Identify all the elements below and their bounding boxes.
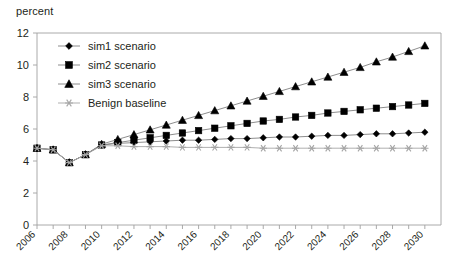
- x-tick-label: 2020: [240, 228, 264, 252]
- legend-item-label: Benign baseline: [88, 97, 166, 109]
- data-point-marker: [276, 134, 282, 140]
- data-point-marker: [147, 135, 153, 141]
- data-point-marker: [195, 127, 201, 133]
- data-point-marker: [357, 107, 363, 113]
- chart-container: percent 024681012 2006200820102012201420…: [0, 0, 454, 273]
- data-point-marker: [421, 42, 429, 49]
- data-point-marker: [324, 145, 331, 151]
- data-point-marker: [389, 103, 395, 109]
- data-point-marker: [244, 120, 250, 126]
- data-point-marker: [260, 135, 266, 141]
- x-tick-label: 2010: [79, 228, 103, 252]
- data-point-marker: [325, 110, 331, 116]
- data-point-marker: [212, 136, 218, 142]
- y-axis-ticks: 024681012: [17, 27, 37, 231]
- x-tick-label: 2024: [305, 228, 329, 252]
- legend-item-1[interactable]: sim1 scenario: [58, 40, 156, 52]
- y-tick-label: 6: [23, 123, 29, 135]
- data-point-marker: [276, 116, 282, 122]
- data-point-marker: [357, 145, 364, 151]
- data-point-marker: [389, 145, 396, 151]
- legend-item-label: sim1 scenario: [88, 40, 156, 52]
- data-point-marker: [405, 102, 411, 108]
- data-point-marker: [211, 144, 218, 150]
- data-point-marker: [179, 137, 185, 143]
- data-point-marker: [422, 100, 428, 106]
- data-point-marker: [228, 123, 234, 129]
- data-point-marker: [244, 135, 250, 141]
- y-tick-label: 8: [23, 91, 29, 103]
- legend-item-2[interactable]: sim2 scenario: [58, 59, 156, 71]
- data-point-marker: [179, 130, 185, 136]
- series-2: [34, 100, 428, 166]
- y-tick-label: 10: [17, 59, 29, 71]
- data-point-marker: [195, 137, 201, 143]
- data-point-marker: [341, 108, 347, 114]
- data-point-marker: [373, 105, 379, 111]
- data-point-marker: [227, 144, 234, 150]
- data-point-marker: [309, 133, 315, 139]
- x-tick-label: 2022: [272, 228, 296, 252]
- data-point-marker: [373, 145, 380, 151]
- data-point-marker: [292, 145, 299, 151]
- data-point-marker: [373, 131, 379, 137]
- legend-item-label: sim3 scenario: [88, 78, 156, 90]
- x-tick-label: 2026: [337, 228, 361, 252]
- data-point-marker: [389, 131, 395, 137]
- y-tick-label: 4: [23, 155, 29, 167]
- legend-item-3[interactable]: sim3 scenario: [58, 78, 156, 90]
- legend-item-label: sim2 scenario: [88, 59, 156, 71]
- data-point-marker: [66, 43, 73, 50]
- x-tick-label: 2012: [111, 228, 135, 252]
- x-tick-label: 2006: [14, 228, 38, 252]
- series-4: [33, 143, 428, 166]
- data-point-marker: [212, 125, 218, 131]
- data-point-marker: [405, 47, 413, 54]
- data-point-marker: [292, 114, 298, 120]
- x-tick-label: 2014: [143, 228, 167, 252]
- data-point-marker: [325, 132, 331, 138]
- x-tick-label: 2028: [369, 228, 393, 252]
- y-tick-label: 2: [23, 187, 29, 199]
- data-point-marker: [341, 132, 347, 138]
- data-point-marker: [356, 63, 364, 70]
- data-point-marker: [308, 145, 315, 151]
- data-point-marker: [405, 145, 412, 151]
- data-point-marker: [309, 112, 315, 118]
- data-point-marker: [65, 100, 73, 107]
- data-point-marker: [421, 145, 428, 151]
- x-axis-ticks: 2006200820102012201420162018202020222024…: [14, 225, 426, 252]
- data-point-marker: [357, 131, 363, 137]
- data-point-marker: [66, 62, 73, 69]
- x-tick-label: 2018: [208, 228, 232, 252]
- data-point-marker: [389, 53, 397, 60]
- data-point-marker: [340, 145, 347, 151]
- data-point-marker: [260, 145, 267, 151]
- y-tick-label: 12: [17, 27, 29, 39]
- data-point-marker: [179, 144, 186, 150]
- data-point-marker: [195, 144, 202, 150]
- x-tick-label: 2030: [402, 228, 426, 252]
- chart-legend: sim1 scenariosim2 scenariosim3 scenarioB…: [58, 40, 166, 109]
- data-point-marker: [292, 134, 298, 140]
- data-point-marker: [260, 118, 266, 124]
- legend-item-4[interactable]: Benign baseline: [58, 97, 166, 109]
- data-point-marker: [243, 144, 250, 150]
- data-point-marker: [163, 132, 169, 138]
- line-chart: 024681012 200620082010201220142016201820…: [0, 0, 454, 273]
- x-tick-label: 2016: [176, 228, 200, 252]
- data-point-marker: [405, 130, 411, 136]
- x-tick-label: 2008: [46, 228, 70, 252]
- data-point-marker: [276, 145, 283, 151]
- data-point-marker: [228, 135, 234, 141]
- data-point-marker: [422, 129, 428, 135]
